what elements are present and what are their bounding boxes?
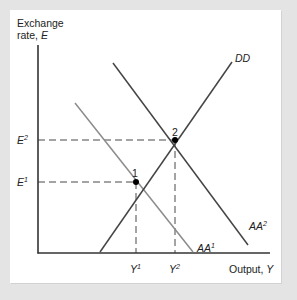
y1-tick-label: Y1 — [130, 263, 141, 275]
y2-sup: 2 — [176, 263, 180, 270]
equilibrium-point-1 — [133, 179, 139, 185]
dd-curve — [100, 62, 232, 252]
e2-sup: 2 — [24, 134, 28, 141]
y-axis-variable: E — [41, 29, 48, 41]
aa2-label-sup: 2 — [263, 220, 267, 227]
y-axis-label-line1: Exchange — [17, 17, 64, 29]
point-2-label: 2 — [172, 126, 178, 138]
e1-sup: 1 — [24, 176, 28, 183]
dd-label: DD — [235, 52, 250, 64]
diagram-canvas — [0, 0, 297, 300]
point-1-label: 1 — [132, 167, 138, 179]
x-axis-variable: Y — [266, 263, 273, 275]
y-axis-label-line2: rate, — [17, 29, 41, 41]
e2-text: E — [17, 134, 24, 146]
x-axis-label-text: Output, — [229, 263, 266, 275]
aa2-label: AA2 — [249, 220, 267, 232]
y-axis-label: Exchange rate, E — [17, 17, 64, 41]
aa1-label-text: AA — [197, 242, 211, 254]
y1-text: Y — [130, 263, 137, 275]
e2-tick-label: E2 — [17, 134, 28, 146]
y2-tick-label: Y2 — [169, 263, 180, 275]
x-axis-label: Output, Y — [229, 263, 273, 275]
aa1-label-sup: 1 — [211, 242, 215, 249]
y1-sup: 1 — [137, 263, 141, 270]
aa1-label: AA1 — [197, 242, 215, 254]
e1-text: E — [17, 176, 24, 188]
y2-text: Y — [169, 263, 176, 275]
aa2-label-text: AA — [249, 220, 263, 232]
aa2-curve — [113, 63, 248, 245]
e1-tick-label: E1 — [17, 176, 28, 188]
